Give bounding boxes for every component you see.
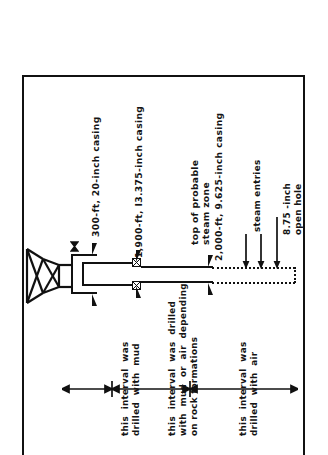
label-surface-casing: 300-ft, 20-inch casing (90, 116, 102, 237)
label-steam-zone-line2: steam zone (200, 182, 212, 245)
production-casing-wall-upper (141, 266, 213, 268)
surface-casing-shoe-lower (92, 294, 97, 306)
production-casing-wall-lower (141, 281, 213, 283)
intermediate-casing-shoe-lower (136, 286, 141, 298)
interval-air-line2: drilled with air (249, 352, 261, 437)
open-hole-total-depth (294, 267, 296, 283)
label-open-hole-line1: 8.75 -inch (282, 183, 294, 235)
interval-mud-line2: drilled with mud (131, 343, 143, 436)
intermediate-casing-head (82, 262, 84, 286)
drilling-derrick-icon (25, 245, 77, 307)
surface-casing-shoe-upper (92, 243, 97, 255)
open-hole-wall-upper (212, 267, 295, 269)
label-production-casing: 2,000-ft, 9.625-inch casing (213, 112, 225, 261)
interval-air-line1: this interval was (238, 342, 250, 436)
open-hole-wall-lower (212, 282, 295, 284)
interval-mud-or-air-line1: this interval was drilled (167, 301, 179, 436)
production-casing-shoe-lower (208, 283, 213, 295)
intermediate-casing-wall-lower (82, 284, 132, 286)
label-steam-entries: steam entries (252, 160, 264, 232)
wellhead-valve-icon (70, 241, 79, 252)
surface-casing-head (71, 254, 73, 294)
label-open-hole-line2: open hole (293, 183, 305, 235)
intermediate-casing-wall-upper (82, 262, 132, 264)
interval-mud-line1: this interval was (120, 342, 132, 436)
production-casing-shoe-upper (208, 255, 213, 267)
steam-entry-arrow-1 (241, 234, 251, 270)
steam-entry-arrow-2 (256, 234, 266, 270)
interval-mud-or-air-line3: on rock formations (189, 337, 201, 436)
interval-mud-or-air-line2: with mud or air depending (178, 283, 190, 436)
open-hole-arrow (272, 217, 282, 270)
label-steam-zone-line1: top of probable (189, 160, 201, 245)
label-intermediate-casing: 1,900-ft, I3.375-inch casing (133, 106, 145, 258)
intermediate-casing-shoe-upper (136, 250, 141, 262)
